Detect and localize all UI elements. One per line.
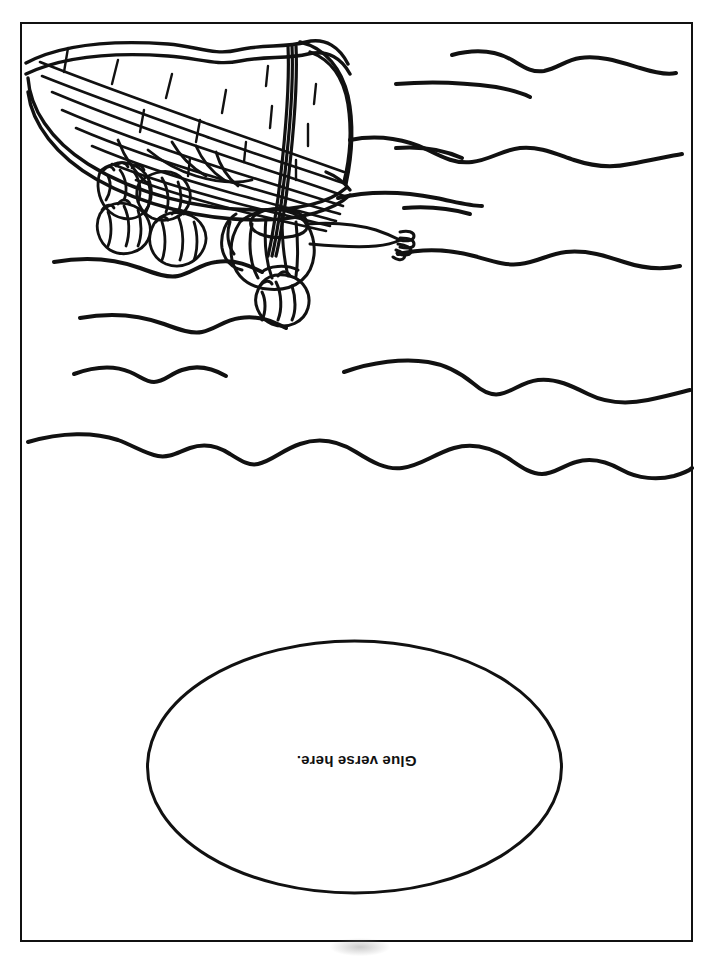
water-waves	[28, 51, 692, 478]
boat-in-storm-illustration	[0, 0, 713, 957]
glue-verse-label: Glue verse here.	[0, 753, 713, 770]
boat-hull	[26, 41, 350, 74]
coloring-page: Glue verse here.	[0, 0, 713, 957]
